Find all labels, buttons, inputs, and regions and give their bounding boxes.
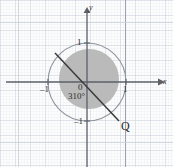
y-tick-label-pos-one: 1	[77, 38, 82, 47]
figure-canvas	[0, 0, 173, 167]
unit-circle-figure: x y –1 1 1 –1 0 310° Q	[0, 0, 173, 167]
x-tick-label-neg-one: –1	[40, 85, 49, 94]
y-axis-label: y	[89, 4, 93, 12]
point-q-label: Q	[121, 120, 130, 132]
x-axis-label: x	[163, 78, 167, 86]
y-tick-label-neg-one: –1	[74, 117, 83, 126]
angle-measure-label: 310°	[68, 92, 85, 101]
x-tick-label-pos-one: 1	[123, 85, 128, 94]
